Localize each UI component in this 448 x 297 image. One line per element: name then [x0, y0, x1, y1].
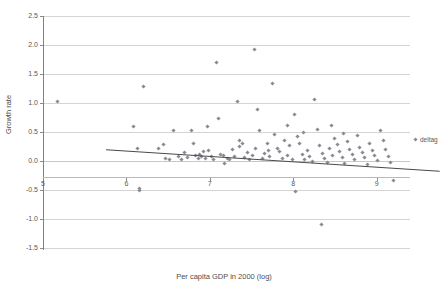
- x-tick-mark: [293, 178, 294, 181]
- y-tick-mark: [40, 161, 43, 162]
- axis-ticks-layer: -1.5-1.0-0.50.00.51.01.52.02.556789: [0, 0, 448, 297]
- x-tick-mark: [377, 178, 378, 181]
- legend: deltag: [414, 136, 438, 143]
- legend-label: deltag: [420, 136, 438, 143]
- y-tick-mark: [40, 74, 43, 75]
- x-tick-mark: [126, 178, 127, 181]
- x-axis-title: Per capita GDP in 2000 (log): [0, 272, 448, 281]
- y-tick-label: 2.0: [4, 41, 38, 49]
- y-tick-mark: [40, 219, 43, 220]
- y-tick-label: 0.0: [4, 157, 38, 165]
- x-tick-mark: [43, 178, 44, 181]
- y-tick-mark: [40, 248, 43, 249]
- x-tick-label: 5: [33, 180, 53, 188]
- y-tick-label: 2.5: [4, 12, 38, 20]
- chart-container: -1.5-1.0-0.50.00.51.01.52.02.556789 Grow…: [0, 0, 448, 297]
- x-tick-label: 6: [116, 180, 136, 188]
- x-tick-label: 8: [283, 180, 303, 188]
- y-tick-mark: [40, 132, 43, 133]
- y-axis-title: Growth rate: [4, 75, 13, 155]
- x-tick-label: 7: [200, 180, 220, 188]
- x-tick-label: 9: [367, 180, 387, 188]
- y-tick-label: -1.5: [4, 244, 38, 252]
- y-tick-mark: [40, 190, 43, 191]
- y-tick-mark: [40, 45, 43, 46]
- diamond-marker-icon: [413, 137, 417, 141]
- x-tick-mark: [210, 178, 211, 181]
- y-tick-mark: [40, 103, 43, 104]
- y-tick-label: -1.0: [4, 215, 38, 223]
- y-tick-mark: [40, 16, 43, 17]
